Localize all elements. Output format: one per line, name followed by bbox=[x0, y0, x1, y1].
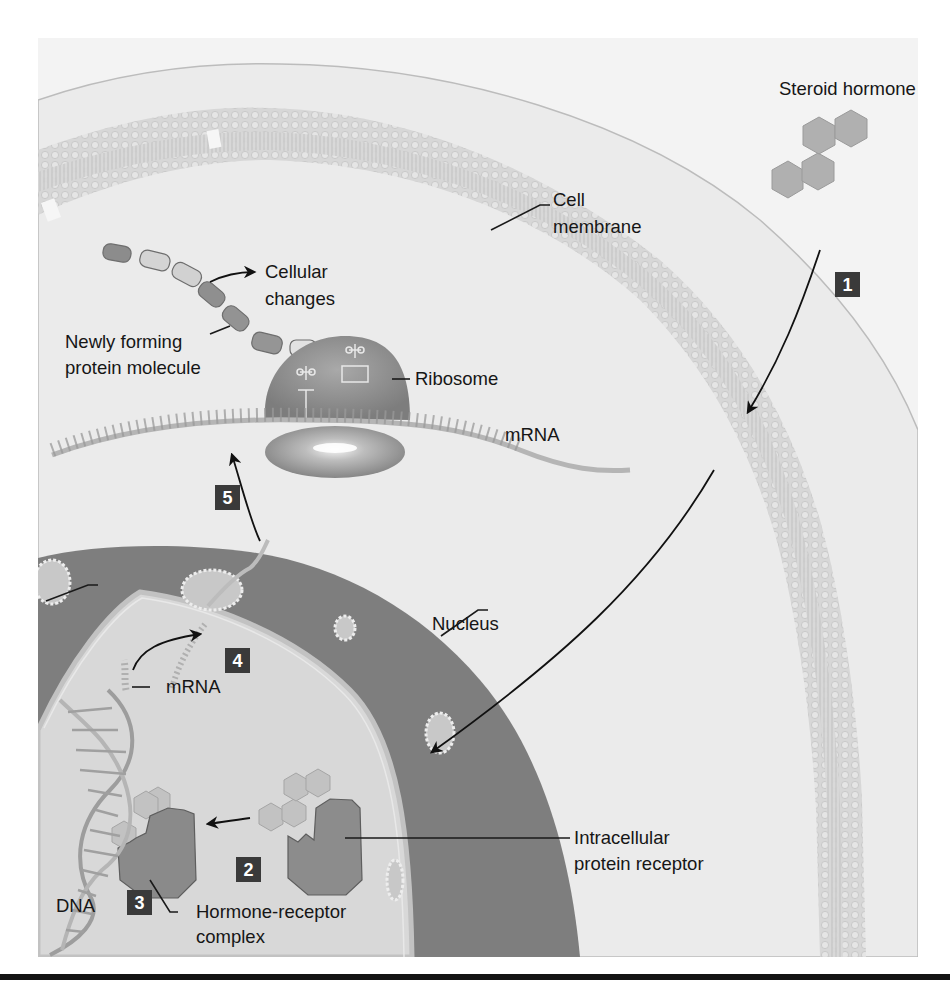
label-hormone-receptor-line2: complex bbox=[196, 926, 266, 947]
label-newly-forming-line1: Newly forming bbox=[65, 331, 182, 352]
label-mrna-cytoplasm: mRNA bbox=[505, 424, 560, 445]
label-cell-membrane-line1: Cell bbox=[553, 189, 585, 210]
label-cell-membrane-line2: membrane bbox=[553, 216, 641, 237]
step-box-2: 2 bbox=[236, 857, 261, 882]
label-ribosome: Ribosome bbox=[415, 368, 498, 389]
step-box-3: 3 bbox=[127, 890, 152, 915]
step-number: 2 bbox=[243, 860, 253, 880]
label-cellular-changes-line1: Cellular bbox=[265, 261, 328, 282]
step-number: 1 bbox=[842, 275, 852, 295]
label-nucleus: Nucleus bbox=[432, 613, 499, 634]
label-newly-forming-line2: protein molecule bbox=[65, 357, 201, 378]
step-box-1: 1 bbox=[835, 272, 860, 297]
step-box-5: 5 bbox=[215, 485, 240, 510]
step-number: 4 bbox=[232, 651, 242, 671]
label-intracellular-line1: Intracellular bbox=[574, 827, 670, 848]
step-number: 3 bbox=[134, 893, 144, 913]
label-cellular-changes-line2: changes bbox=[265, 288, 335, 309]
bottom-rule bbox=[0, 974, 950, 980]
steroid-hormone-diagram: 1 2 3 4 5 Steroid hormone Cell membrane … bbox=[0, 0, 950, 997]
label-mrna-nucleus: mRNA bbox=[166, 676, 221, 697]
step-box-4: 4 bbox=[225, 648, 250, 673]
label-dna: DNA bbox=[56, 895, 96, 916]
label-hormone-receptor-line1: Hormone-receptor bbox=[196, 901, 346, 922]
label-intracellular-line2: protein receptor bbox=[574, 853, 704, 874]
label-steroid-hormone: Steroid hormone bbox=[779, 78, 916, 99]
step-number: 5 bbox=[222, 488, 232, 508]
